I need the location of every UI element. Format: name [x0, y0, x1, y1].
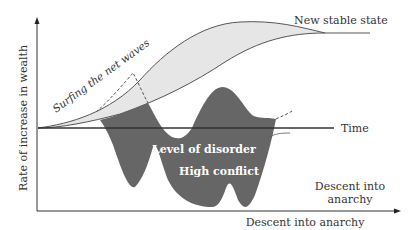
x-axis-label: Descent into anarchy	[246, 216, 365, 229]
y-axis-label: Rate of increase in wealth	[17, 45, 30, 191]
descent-label-line2: anarchy	[328, 193, 374, 206]
level-of-disorder-label: Level of disorder	[152, 143, 256, 156]
time-label: Time	[341, 122, 369, 135]
high-conflict-label: High conflict	[179, 165, 260, 178]
x-axis-arrow-icon	[394, 209, 401, 214]
descent-label-line1: Descent into	[315, 180, 386, 193]
disorder-diagram: Rate of increase in wealth Descent into …	[0, 0, 411, 230]
new-stable-state-label: New stable state	[294, 14, 388, 27]
y-axis-arrow-icon	[35, 17, 40, 24]
small-curve	[270, 133, 290, 137]
dashed-tail	[276, 111, 292, 119]
